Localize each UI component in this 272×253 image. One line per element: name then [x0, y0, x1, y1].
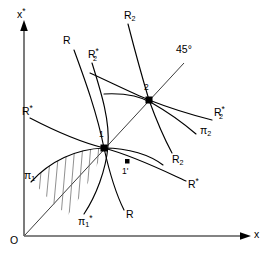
label-group: Rx* x O 1 2 1' R R R* R*: [10, 6, 260, 246]
marker-point-2: [146, 97, 153, 104]
label-point-1: 1: [99, 129, 104, 139]
curve-R2-path: [128, 24, 172, 153]
label-pi1-star: π1*: [78, 213, 93, 229]
label-pi1: π1: [24, 169, 35, 183]
label-R2star-right: R*2: [214, 104, 226, 121]
label-point-1-prime: 1': [122, 166, 129, 176]
label-R2-top: R2: [124, 9, 136, 23]
curve-pi1-path: [31, 148, 163, 182]
label-axis-x: x: [254, 228, 260, 240]
label-origin: O: [10, 234, 18, 246]
curve-pi1: [31, 148, 163, 182]
curve-pi1-star: [84, 63, 108, 214]
label-Rstar-left: R*: [22, 103, 34, 117]
label-pi2: π2: [200, 124, 211, 138]
y-axis-arrowhead: [20, 20, 28, 31]
curve-R2: [128, 24, 172, 153]
label-R2star-left: R*2: [88, 46, 100, 63]
x-axis-arrowhead: [240, 232, 251, 240]
diagram-canvas: Rx* x O 1 2 1' R R R* R*: [0, 0, 272, 253]
curve-pi1-star-path: [84, 63, 108, 214]
label-point-2: 2: [144, 82, 149, 92]
diagram-figure: Rx* x O 1 2 1' R R R* R*: [0, 0, 272, 253]
label-R-bottom: R: [126, 208, 134, 220]
marker-point-1-prime: [125, 159, 130, 164]
label-R-top: R: [63, 34, 71, 46]
label-axis-xstar: Rx*: [17, 6, 26, 20]
marker-point-1: [101, 145, 108, 152]
label-R2-bottom: R2: [172, 153, 184, 167]
label-Rstar-right: R*: [188, 176, 200, 190]
label-45-degree: 45°: [176, 43, 192, 55]
